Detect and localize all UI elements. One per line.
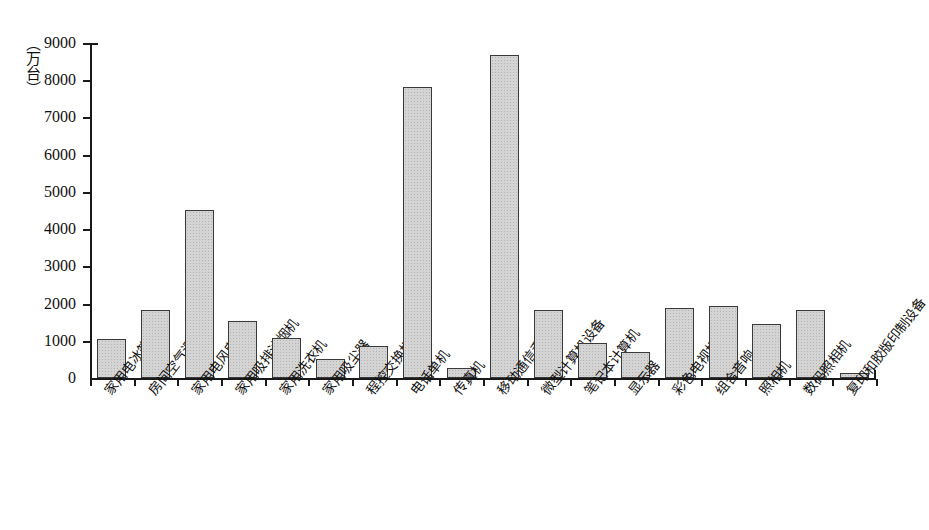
x-axis-tick-mark [614,379,616,386]
bar [185,210,214,378]
y-axis-tick-label: 5000 [30,184,76,200]
x-axis-tick-mark [90,379,92,386]
y-axis-tick-mark [83,192,90,194]
y-axis-tick-mark [83,266,90,268]
x-axis-tick-mark [265,379,267,386]
x-axis-tick-mark [483,379,485,386]
y-axis-tick-mark [83,43,90,45]
x-axis-tick-mark [570,379,572,386]
x-axis-tick-mark [832,379,834,386]
y-axis-tick-mark [83,80,90,82]
x-axis-category-label: 复印和胶版印制设备 [844,295,929,398]
x-axis-tick-mark [876,379,878,386]
y-axis-tick-mark [83,229,90,231]
y-axis-line [90,43,92,380]
y-axis-tick-label: 9000 [30,35,76,51]
x-axis-tick-mark [396,379,398,386]
y-axis-tick-mark [83,304,90,306]
y-axis-tick-label: 2000 [30,296,76,312]
y-axis-tick-label: 4000 [30,221,76,237]
x-axis-tick-mark [745,379,747,386]
x-axis-tick-mark [789,379,791,386]
bar [490,55,519,378]
x-axis-tick-mark [352,379,354,386]
x-axis-tick-mark [701,379,703,386]
y-axis-tick-label: 0 [30,370,76,386]
y-axis-tick-labels: 0100020003000400050006000700080009000 [24,0,76,530]
x-axis-tick-mark [221,379,223,386]
y-axis-tick-mark [83,117,90,119]
y-axis-tick-label: 8000 [30,72,76,88]
x-axis-tick-mark [308,379,310,386]
x-axis-tick-mark [527,379,529,386]
bar [403,87,432,378]
y-axis-tick-mark [83,341,90,343]
x-axis-tick-mark [134,379,136,386]
y-axis-tick-mark [83,155,90,157]
y-axis-top-cap [90,43,98,45]
y-axis-tick-label: 3000 [30,258,76,274]
x-axis-tick-mark [177,379,179,386]
y-axis-tick-label: 7000 [30,109,76,125]
x-axis-tick-mark [658,379,660,386]
x-axis-tick-mark [439,379,441,386]
y-axis-tick-label: 6000 [30,147,76,163]
y-axis-tick-label: 1000 [30,333,76,349]
